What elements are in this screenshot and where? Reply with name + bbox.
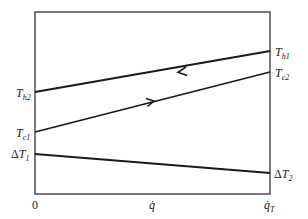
x-tick-zero: 0 — [32, 199, 38, 211]
x-tick-qt: q̇T — [264, 199, 274, 214]
label-th2: Th2 — [16, 87, 31, 102]
diagram-canvas — [0, 0, 308, 219]
arrow-left-icon — [178, 67, 187, 76]
label-th1: Th1 — [275, 46, 290, 61]
label-dt1: ΔT1 — [11, 148, 29, 163]
label-dt2: ΔT2 — [274, 168, 292, 183]
x-tick-q: q̇ — [149, 199, 155, 211]
label-tc2: Tc2 — [275, 67, 289, 82]
delta-t-line — [35, 154, 270, 173]
hot-stream-line — [35, 51, 270, 92]
label-tc1: Tc1 — [16, 127, 30, 142]
